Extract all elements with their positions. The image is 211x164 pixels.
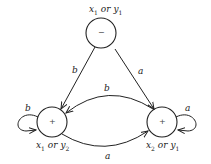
edge-left-right: [62, 131, 148, 146]
edge-top-left-label: b: [72, 66, 78, 75]
state-diagram: [0, 0, 211, 164]
edge-right-left-label: b: [104, 84, 110, 93]
node-top-sign: −: [98, 29, 105, 37]
node-left-label: x1 or y2: [36, 141, 69, 152]
edge-right-self-label: a: [185, 104, 190, 113]
edge-right-left: [66, 95, 153, 113]
edge-left-right-label: a: [105, 152, 110, 161]
edge-right-self: [176, 115, 196, 131]
edge-left-self-label: b: [25, 104, 31, 113]
edge-left-self: [18, 115, 38, 131]
node-right-sign: +: [159, 118, 166, 126]
edge-top-right-label: a: [138, 67, 143, 76]
node-right-label: x2 or y1: [146, 141, 179, 152]
node-left-sign: +: [49, 118, 56, 126]
node-top-label: x1 or y1: [89, 5, 122, 16]
